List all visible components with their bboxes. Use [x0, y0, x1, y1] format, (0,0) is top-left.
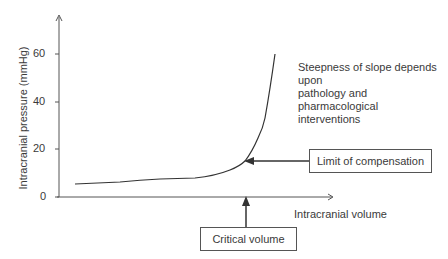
y-tick-40: 40 — [33, 95, 45, 108]
critical-volume-label: Critical volume — [212, 233, 284, 245]
limit-of-compensation-box: Limit of compensation — [309, 149, 432, 173]
pressure-volume-curve — [75, 54, 275, 184]
slope-annotation: Steepness of slope depends upon patholog… — [298, 61, 448, 126]
limit-of-compensation-label: Limit of compensation — [317, 155, 424, 167]
critical-volume-box: Critical volume — [200, 227, 297, 251]
y-tick-60: 60 — [33, 47, 45, 60]
y-tick-20: 20 — [33, 142, 45, 155]
y-tick-0: 0 — [40, 190, 46, 203]
slope-note-line-1: Steepness of slope depends upon — [298, 61, 448, 87]
slope-note-line-3: interventions — [298, 113, 448, 126]
y-axis-label: Intracranial pressure (mmHg) — [17, 46, 29, 189]
slope-note-line-2: pathology and pharmacological — [298, 87, 448, 113]
x-axis-label: Intracranial volume — [294, 208, 387, 221]
limit-arrow-head-icon — [244, 157, 254, 165]
